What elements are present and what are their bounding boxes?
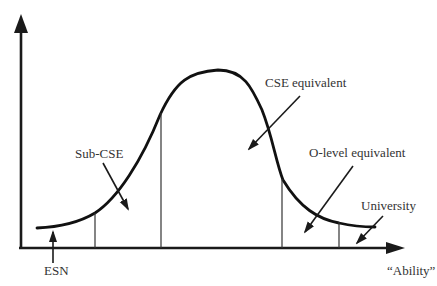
label-o-level-equivalent: O-level equivalent [309, 145, 406, 160]
olevel-pointer-arrow-icon [305, 166, 353, 232]
y-axis-arrow-icon [14, 14, 28, 33]
pointer-arrows [53, 96, 383, 263]
cse-pointer-arrow-icon [249, 96, 300, 149]
x-axis-label: “Ability” [387, 263, 436, 278]
region-boundaries [95, 113, 339, 248]
label-cse-equivalent: CSE equivalent [265, 75, 347, 90]
label-university: University [361, 198, 416, 213]
y-axis [14, 14, 28, 248]
label-sub-cse: Sub-CSE [75, 146, 123, 161]
label-esn: ESN [44, 263, 69, 278]
university-pointer-arrow-icon [357, 216, 383, 243]
x-axis [19, 242, 405, 254]
x-axis-arrow-icon [386, 242, 405, 254]
ability-distribution-diagram: CSE equivalent Sub-CSE O-level equivalen… [0, 0, 437, 286]
